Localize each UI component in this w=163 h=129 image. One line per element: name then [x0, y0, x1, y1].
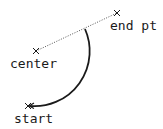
center-point-marker-icon — [33, 48, 39, 54]
end-point-label: end pt — [110, 19, 157, 32]
arc-diagram: end pt center start — [0, 0, 163, 129]
center-label: center — [10, 57, 57, 70]
start-label: start — [14, 112, 53, 125]
center-to-end-dotted-line — [36, 13, 117, 51]
end-point-marker-icon — [114, 10, 120, 16]
